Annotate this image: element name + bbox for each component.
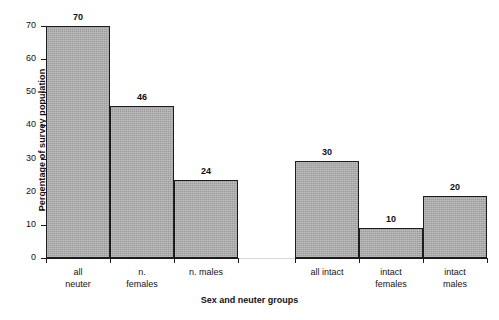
bar-chart: Percentage of survey population 01020304… xyxy=(0,0,499,320)
bar xyxy=(423,196,487,258)
bar xyxy=(295,161,359,258)
y-axis-tick-label: 50 xyxy=(2,86,36,96)
y-axis-tick-label: 30 xyxy=(2,153,36,163)
x-axis-tick xyxy=(110,258,111,263)
bar-value-label: 46 xyxy=(110,92,174,102)
bar-value-label: 24 xyxy=(174,166,238,176)
bar-value-label: 20 xyxy=(423,182,487,192)
bar xyxy=(110,106,174,258)
x-axis-title: Sex and neuter groups xyxy=(0,295,499,305)
x-axis-tick xyxy=(238,258,239,263)
x-axis-tick xyxy=(423,258,424,263)
bar xyxy=(174,180,238,258)
bar xyxy=(359,228,423,258)
x-axis-category-line: intact xyxy=(417,266,493,278)
x-axis-category-line: males xyxy=(417,278,493,290)
x-axis-tick xyxy=(295,258,296,263)
bar-value-label: 70 xyxy=(46,12,110,22)
y-axis-tick-label: 60 xyxy=(2,53,36,63)
x-axis-category-line: n. males xyxy=(168,266,244,278)
axis-baseline-group-intact xyxy=(295,258,487,259)
x-axis-category-line: females xyxy=(104,278,180,290)
y-axis-tick-label: 10 xyxy=(2,219,36,229)
bar xyxy=(46,26,110,258)
bar-value-label: 10 xyxy=(359,214,423,224)
y-axis-tick-label: 0 xyxy=(2,252,36,262)
axis-baseline-group-neuter xyxy=(46,258,238,259)
x-axis-tick xyxy=(487,258,488,263)
y-axis-tick-label: 20 xyxy=(2,186,36,196)
bar-value-label: 30 xyxy=(295,147,359,157)
x-axis-tick xyxy=(46,258,47,263)
x-axis-category-label: n. males xyxy=(168,266,244,278)
x-axis-category-label: intactmales xyxy=(417,266,493,290)
x-axis-tick xyxy=(359,258,360,263)
y-axis-tick-label: 40 xyxy=(2,119,36,129)
x-axis-tick xyxy=(174,258,175,263)
y-axis-tick-label: 70 xyxy=(2,20,36,30)
